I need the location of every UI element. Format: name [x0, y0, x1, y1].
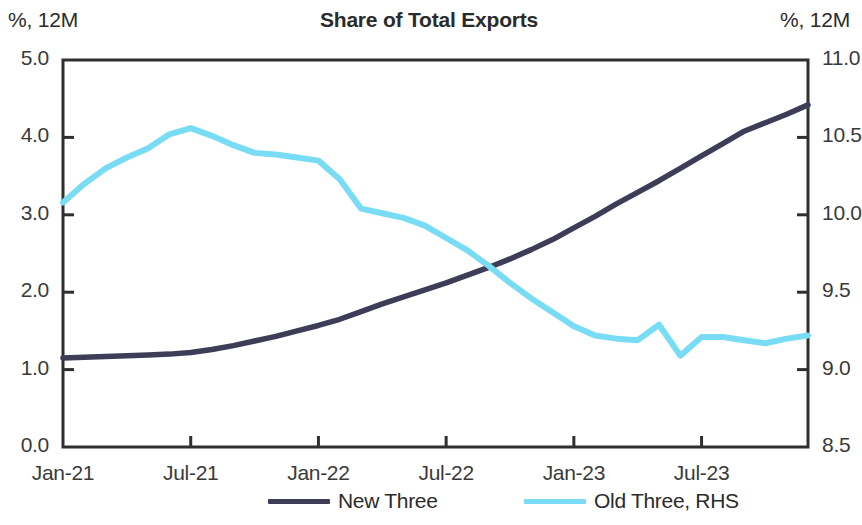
x-axis-tick-label: Jan-22: [258, 461, 378, 485]
right-axis-tick-label: 9.0: [822, 356, 850, 380]
right-axis-tick-label: 10.0: [822, 201, 862, 225]
legend-swatch-icon: [268, 499, 330, 504]
left-axis-tick-label: 4.0: [21, 123, 49, 147]
legend-item[interactable]: Old Three, RHS: [524, 489, 739, 513]
x-axis-tick-label: Jan-21: [3, 461, 123, 485]
left-axis-tick-label: 3.0: [21, 201, 49, 225]
x-axis-tick-label: Jul-21: [131, 461, 251, 485]
legend-swatch-icon: [524, 499, 586, 504]
right-axis-tick-label: 9.5: [822, 278, 850, 302]
legend-label: Old Three, RHS: [594, 489, 739, 513]
right-axis-tick-label: 8.5: [822, 433, 850, 457]
plot-frame: [63, 60, 808, 447]
legend-label: New Three: [338, 489, 438, 513]
chart-legend: New ThreeOld Three, RHS: [0, 489, 858, 523]
right-axis-tick-label: 11.0: [822, 46, 860, 70]
left-axis-tick-label: 5.0: [21, 46, 49, 70]
x-axis-tick-label: Jan-23: [514, 461, 634, 485]
right-axis-tick-label: 10.5: [822, 123, 862, 147]
plot-svg: [0, 0, 858, 480]
legend-item[interactable]: New Three: [268, 489, 438, 513]
x-axis-tick-label: Jul-23: [642, 461, 762, 485]
left-axis-tick-label: 2.0: [21, 278, 49, 302]
left-axis-tick-label: 0.0: [21, 433, 49, 457]
plot-area: 0.01.02.03.04.05.08.59.09.510.010.511.0J…: [0, 0, 858, 480]
x-axis-tick-label: Jul-22: [386, 461, 506, 485]
left-axis-tick-label: 1.0: [21, 356, 49, 380]
